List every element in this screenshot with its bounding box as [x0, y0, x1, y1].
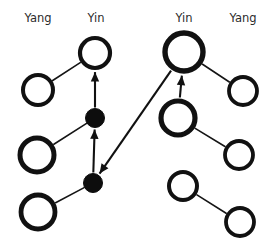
- node-open[interactable]: [21, 195, 55, 229]
- arrowhead-icon: [100, 163, 109, 173]
- node-open[interactable]: [161, 101, 195, 135]
- edge: [54, 123, 87, 144]
- node-open[interactable]: [80, 38, 110, 68]
- node-filled[interactable]: [86, 109, 105, 128]
- node-open[interactable]: [20, 138, 54, 172]
- column-label: Yin: [174, 11, 192, 25]
- edge: [203, 64, 230, 82]
- node-filled[interactable]: [84, 174, 103, 193]
- edge: [197, 195, 226, 213]
- node-open[interactable]: [23, 75, 53, 105]
- diagram-canvas: YangYinYinYang: [0, 0, 273, 250]
- node-open[interactable]: [226, 208, 254, 236]
- arrowhead-icon: [91, 72, 99, 82]
- column-label: Yang: [228, 11, 256, 25]
- edge-layer: [53, 63, 230, 214]
- column-label: Yin: [86, 11, 104, 25]
- arrowhead-icon: [90, 129, 98, 139]
- node-open[interactable]: [165, 33, 203, 71]
- node-layer: [20, 33, 257, 236]
- edge: [53, 63, 81, 81]
- column-label: Yang: [23, 11, 51, 25]
- label-layer: YangYinYinYang: [23, 11, 256, 25]
- node-open[interactable]: [229, 77, 257, 105]
- edge: [195, 128, 225, 146]
- node-open[interactable]: [225, 141, 253, 169]
- yin-yang-node-diagram: YangYinYinYang: [0, 0, 273, 250]
- node-open[interactable]: [169, 172, 197, 200]
- edge: [56, 188, 85, 203]
